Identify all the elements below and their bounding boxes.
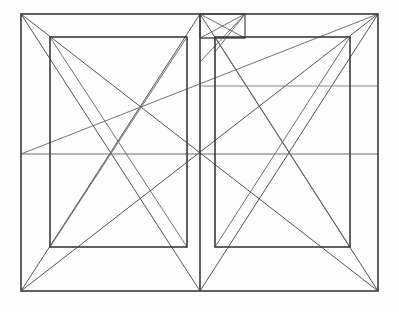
- canon-diagram-root: [0, 0, 399, 312]
- page-layout-canon-svg: [0, 0, 399, 312]
